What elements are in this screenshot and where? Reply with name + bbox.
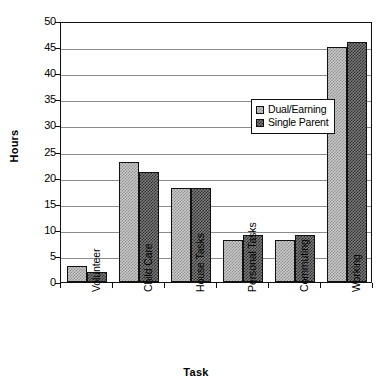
bar	[223, 240, 243, 282]
x-axis-title: Task	[0, 366, 392, 378]
bar	[171, 188, 191, 282]
y-tick-label: 10	[26, 225, 56, 236]
y-tick-label: 30	[26, 120, 56, 131]
legend-swatch-dual-earning	[256, 106, 264, 114]
x-axis-category-label: Commuting	[299, 239, 310, 292]
y-tick-label: 40	[26, 68, 56, 79]
gridline	[61, 258, 371, 259]
gridline	[61, 49, 371, 50]
bar-chart: Hours 05101520253035404550 Dual/Earning …	[0, 0, 392, 392]
y-tick-label: 20	[26, 173, 56, 184]
x-tick-mark	[60, 283, 61, 288]
bar	[119, 162, 139, 282]
legend-item-dual-earning: Dual/Earning	[256, 103, 330, 116]
legend: Dual/Earning Single Parent	[251, 99, 335, 134]
y-tick-label: 45	[26, 42, 56, 53]
x-tick-mark	[216, 283, 217, 288]
gridline	[61, 75, 371, 76]
x-tick-mark	[164, 283, 165, 288]
x-axis-category-label: Personal Tasks	[247, 222, 258, 292]
y-tick-label: 15	[26, 199, 56, 210]
y-axis-title: Hours	[8, 116, 20, 176]
y-tick-label: 50	[26, 16, 56, 27]
plot-area: Dual/Earning Single Parent	[60, 22, 372, 283]
x-axis-category-label: Working	[351, 254, 362, 292]
bar	[275, 240, 295, 282]
x-tick-mark	[372, 283, 373, 288]
legend-item-single-parent: Single Parent	[256, 116, 330, 129]
bar	[327, 47, 347, 282]
legend-label-dual-earning: Dual/Earning	[268, 104, 326, 115]
bar	[347, 42, 367, 282]
y-tick-label: 5	[26, 251, 56, 262]
legend-swatch-single-parent	[256, 119, 264, 127]
x-axis-category-label: Child Care	[143, 243, 154, 292]
gridline	[61, 206, 371, 207]
y-tick-label: 35	[26, 94, 56, 105]
bar	[67, 266, 87, 282]
x-axis-category-label: Volunteer	[91, 249, 102, 292]
y-tick-label: 25	[26, 147, 56, 158]
gridline	[61, 232, 371, 233]
gridline	[61, 154, 371, 155]
y-tick-label: 0	[26, 277, 56, 288]
x-tick-mark	[320, 283, 321, 288]
x-tick-mark	[268, 283, 269, 288]
legend-label-single-parent: Single Parent	[268, 117, 328, 128]
gridline	[61, 180, 371, 181]
x-tick-mark	[112, 283, 113, 288]
x-axis-category-label: House Tasks	[195, 233, 206, 292]
